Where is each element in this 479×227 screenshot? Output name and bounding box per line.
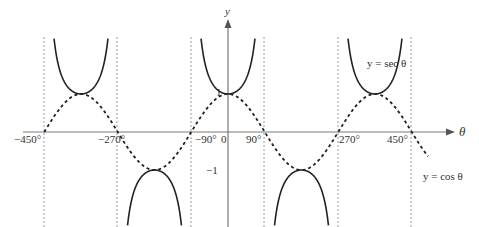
chart-canvas: y θ 1 −1 −450° −270° −90° 0 90° 270° 450… [0, 0, 479, 227]
x-tick-zero: 0 [221, 133, 227, 145]
y-axis-label: y [224, 5, 230, 17]
cos-curve-label: y = cos θ [423, 170, 463, 182]
x-tick-m270: −270° [98, 133, 125, 145]
x-tick-m450: −450° [14, 133, 41, 145]
y-tick-minus-1: −1 [206, 164, 218, 176]
axes [23, 19, 455, 227]
y-tick-1: 1 [216, 86, 222, 98]
sec-curve-label: y = sec θ [367, 57, 406, 69]
x-tick-m90: −90° [195, 133, 217, 145]
theta-axis-label: θ [459, 124, 466, 139]
x-tick-p90: 90° [246, 133, 261, 145]
x-tick-p270: 270° [339, 133, 360, 145]
x-tick-p450: 450° [387, 133, 408, 145]
